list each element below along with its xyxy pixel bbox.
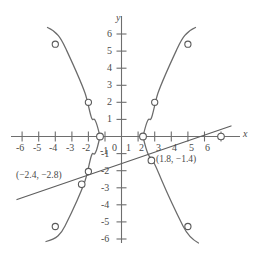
x-tick-label--2: -2 [82,143,90,153]
y-tick-label--5: -5 [101,217,109,227]
intersection-right-point [148,157,155,164]
x-tick-label-1: 1 [126,143,131,153]
intersection-left-point [78,181,85,188]
origin-label: 0 [112,143,117,153]
x-tick-label-4: 4 [172,143,177,153]
line-x-intercept-marker [218,133,225,140]
x-tick-label-2: 2 [139,143,144,153]
marker-right-upper-b [152,99,158,105]
y-tick-label--6: -6 [101,234,109,244]
marker-left-upper-a [52,41,58,47]
marker-right-lower-b [185,223,191,229]
hyperbola-curves [46,28,199,244]
x-tick-label--4: -4 [49,143,57,153]
y-tick-label--3: -3 [101,183,109,193]
y-tick-label-6: 6 [107,29,112,39]
marker-right-upper-a [185,41,191,47]
y-tick-label-3: 3 [107,80,112,90]
y-tick-label--4: -4 [101,200,109,210]
marker-left-lower-a [85,168,91,174]
y-tick-label-1: 1 [107,114,112,124]
y-tick-label-4: 4 [107,63,112,73]
x-tick-label--6: -6 [16,143,24,153]
intersection-markers [78,133,224,187]
y-tick-label--1: -1 [101,149,109,159]
y-tick-label-5: 5 [107,46,112,56]
annotation-right-intersection: (1.8, −1.4) [156,155,196,165]
x-tick-label-5: 5 [189,143,194,153]
x-tick-label-6: 6 [205,143,210,153]
annotation-left-intersection: (−2.4, −2.8) [16,171,62,181]
graph-figure: y x -6 -5 -4 -3 -2 -1 0 1 2 3 4 5 6 6 5 … [0,0,260,261]
marker-right-vertex [140,133,147,140]
x-tick-label-3: 3 [156,143,161,153]
x-tick-label--3: -3 [66,143,74,153]
marker-left-lower-b [52,223,58,229]
marker-left-vertex [97,133,104,140]
y-tick-label--2: -2 [101,166,109,176]
x-axis-label: x [243,129,247,139]
x-tick-label--5: -5 [33,143,41,153]
axes-group [11,16,240,243]
marker-left-upper-b [85,99,91,105]
y-tick-label-2: 2 [107,97,112,107]
y-axis-label: y [116,13,120,23]
coordinate-plane-svg [0,0,260,261]
